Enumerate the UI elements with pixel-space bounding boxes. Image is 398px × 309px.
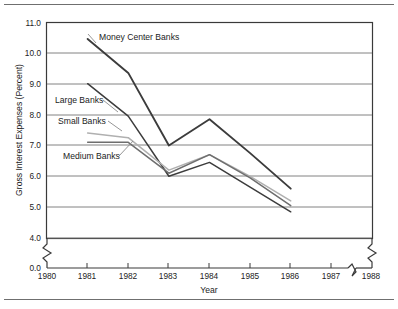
x-tick-label: 1985 xyxy=(241,271,260,281)
y-tick-label: 4.0 xyxy=(29,233,41,243)
x-axis-title: Year xyxy=(200,285,218,295)
y-tick-label: 9.0 xyxy=(29,79,41,89)
series-layer xyxy=(88,39,291,212)
y-tick-label: 6.0 xyxy=(29,171,41,181)
x-axis-tick-marks xyxy=(87,263,331,268)
y-tick-label: 8.0 xyxy=(29,110,41,120)
series-line xyxy=(88,84,291,212)
series-annotation-label: Medium Banks xyxy=(63,151,120,161)
x-tick-label: 1986 xyxy=(281,271,300,281)
line-chart: 11.0 10.0 9.0 8.0 7.0 6.0 5.0 4.0 0.0 Gr… xyxy=(0,0,398,309)
y-tick-label: 7.0 xyxy=(29,140,41,150)
gridlines xyxy=(47,53,372,238)
x-tick-label: 1981 xyxy=(78,271,97,281)
plot-frame xyxy=(47,23,373,239)
x-tick-label: 1982 xyxy=(119,271,138,281)
y-tick-label: 11.0 xyxy=(25,18,41,28)
series-line xyxy=(88,133,291,201)
x-tick-label: 1984 xyxy=(200,271,219,281)
series-line xyxy=(88,39,291,189)
series-annotation-label: Small Banks xyxy=(58,116,106,126)
y-axis-title: Gross Interest Expenses (Percent) xyxy=(14,64,24,196)
y-tick-label: 10.0 xyxy=(25,48,42,58)
axis-break-left xyxy=(43,238,51,268)
figure-container: 11.0 10.0 9.0 8.0 7.0 6.0 5.0 4.0 0.0 Gr… xyxy=(0,0,398,309)
x-tick-label: 1988 xyxy=(362,271,381,281)
x-tick-label: 1983 xyxy=(159,271,178,281)
series-annotation-label: Large Banks xyxy=(55,95,103,105)
chart-svg: 11.0 10.0 9.0 8.0 7.0 6.0 5.0 4.0 0.0 Gr… xyxy=(0,0,398,309)
x-tick-label: 1980 xyxy=(38,271,57,281)
x-tick-label: 1987 xyxy=(322,271,341,281)
y-tick-label: 5.0 xyxy=(29,202,41,212)
series-annotation-label: Money Center Banks xyxy=(99,32,179,42)
x-axis-tick-labels: 1980 1981 1982 1983 1984 1985 1986 1987 … xyxy=(38,271,381,281)
y-axis-tick-labels: 11.0 10.0 9.0 8.0 7.0 6.0 5.0 4.0 0.0 xyxy=(25,18,42,273)
